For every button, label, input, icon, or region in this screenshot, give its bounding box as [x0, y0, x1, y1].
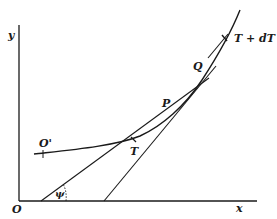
label-p: P — [161, 97, 171, 110]
curve — [34, 10, 240, 154]
diagram-canvas: y O x O' T P Q T + dT ψ — [0, 0, 277, 219]
label-o-prime: O' — [39, 137, 52, 150]
label-t-plus-dt: T + dT — [234, 32, 276, 45]
angle-psi-label: ψ — [55, 188, 65, 199]
tangent-line-t — [41, 78, 209, 201]
x-axis-label: x — [235, 202, 243, 215]
y-axis-label: y — [7, 29, 16, 42]
label-t: T — [130, 145, 139, 158]
origin-label: O — [12, 203, 22, 216]
tangent-line-p — [104, 66, 216, 201]
label-q: Q — [193, 60, 203, 73]
